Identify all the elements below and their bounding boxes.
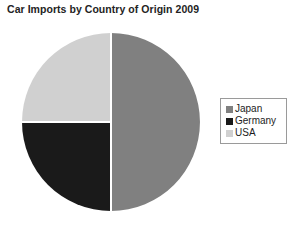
legend-label-japan: Japan (235, 103, 262, 115)
legend-box: Japan Germany USA (220, 98, 287, 144)
legend-label-usa: USA (235, 127, 256, 139)
legend-item-usa[interactable]: USA (226, 127, 282, 139)
legend-swatch-icon-usa (226, 130, 233, 137)
legend-swatch-icon-japan (226, 106, 233, 113)
legend-item-germany[interactable]: Germany (226, 115, 282, 127)
pie-slice-japan[interactable] (111, 33, 200, 211)
pie-slice-germany[interactable] (22, 122, 111, 211)
pie-slice-usa[interactable] (22, 33, 111, 122)
pie-chart-figure: Car Imports by Country of Origin 2009 Ja… (0, 0, 307, 229)
legend-item-japan[interactable]: Japan (226, 103, 282, 115)
legend-swatch-icon-germany (226, 118, 233, 125)
legend-label-germany: Germany (235, 115, 276, 127)
